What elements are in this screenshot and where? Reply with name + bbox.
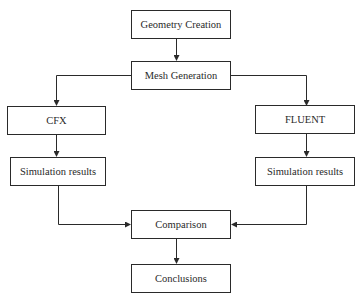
node-simulation-results-cfx: Simulation results: [10, 157, 106, 186]
node-conclusions: Conclusions: [131, 264, 231, 293]
node-geometry-creation: Geometry Creation: [131, 10, 231, 39]
flowchart-connectors: [0, 0, 363, 301]
edge-mesh-to-cfx: [57, 76, 132, 106]
flowchart: Geometry Creation Mesh Generation CFX FL…: [0, 0, 363, 301]
node-fluent: FLUENT: [255, 105, 355, 134]
edge-sim-cfx-to-comparison: [59, 186, 131, 225]
node-cfx: CFX: [7, 106, 106, 135]
node-simulation-results-fluent: Simulation results: [255, 157, 355, 186]
edge-sim-fluent-to-comparison: [232, 186, 307, 225]
node-mesh-generation: Mesh Generation: [131, 61, 231, 90]
node-comparison: Comparison: [131, 210, 231, 239]
edge-mesh-to-fluent: [231, 76, 307, 106]
